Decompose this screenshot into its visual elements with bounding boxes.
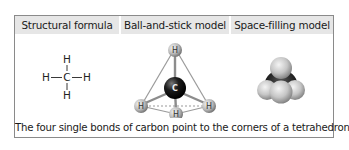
label-h-left: H xyxy=(138,102,144,111)
hydrogen-sphere-front xyxy=(270,81,293,104)
label-h-top: H xyxy=(172,46,178,55)
atom-c-center: C xyxy=(63,71,70,83)
space-filling-diagram xyxy=(231,34,335,118)
ball-and-stick-diagram: H C H H H xyxy=(121,34,229,118)
atom-h-top: H xyxy=(63,53,71,65)
table-header: Structural formula Ball-and-stick model … xyxy=(15,16,333,34)
header-ball-and-stick: Ball-and-stick model xyxy=(119,16,229,34)
atom-h-bottom: H xyxy=(63,89,71,101)
ball-and-stick-panel: H C H H H xyxy=(121,34,229,118)
atom-h-left: H xyxy=(42,71,50,83)
figure-caption: The four single bonds of carbon point to… xyxy=(15,122,333,133)
header-space-filling: Space-filling model xyxy=(229,16,333,34)
label-h-right: H xyxy=(206,102,212,111)
structural-formula-diagram: H H C H H xyxy=(15,34,120,118)
label-h-front: H xyxy=(173,110,179,118)
hydrogen-sphere-top xyxy=(270,57,292,79)
header-structural-formula: Structural formula xyxy=(15,16,119,34)
structural-formula-panel: H H C H H xyxy=(15,34,120,118)
atom-h-right: H xyxy=(83,71,91,83)
label-c: C xyxy=(172,84,178,93)
methane-models-table: Structural formula Ball-and-stick model … xyxy=(14,15,334,138)
space-filling-panel xyxy=(231,34,335,118)
